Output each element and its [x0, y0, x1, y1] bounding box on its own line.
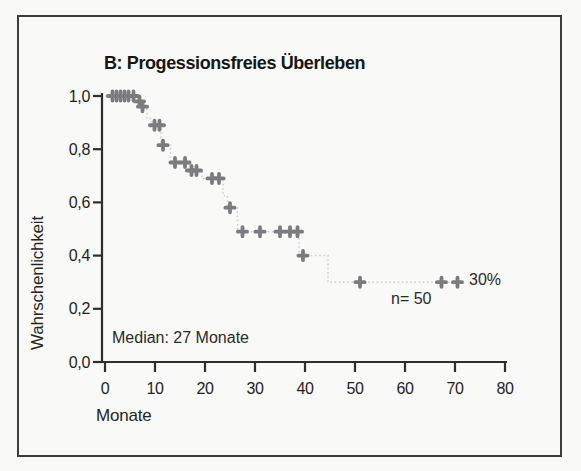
censor-mark	[355, 278, 364, 287]
x-tick-label: 80	[496, 380, 514, 397]
sample-size-annotation: n= 50	[391, 290, 431, 308]
censor-mark	[180, 158, 189, 167]
plateau-percent-annotation: 30%	[469, 271, 501, 289]
x-tick-label: 40	[296, 380, 314, 397]
y-tick-label: 1,0	[69, 88, 91, 105]
y-tick-label: 0,2	[69, 300, 91, 317]
censor-mark	[158, 141, 167, 150]
censor-mark	[437, 278, 446, 287]
y-tick-label: 0,0	[69, 354, 91, 371]
x-tick-label: 60	[396, 380, 414, 397]
x-tick-label: 70	[446, 380, 464, 397]
censor-mark	[214, 174, 223, 183]
chart-title: B: Progessionsfreies Überleben	[104, 53, 365, 74]
median-annotation: Median: 27 Monate	[112, 329, 249, 347]
censor-mark	[255, 227, 264, 236]
censor-mark	[238, 227, 247, 236]
x-axis-title: Monate	[96, 406, 152, 426]
censor-mark	[170, 158, 179, 167]
x-tick-label: 50	[346, 380, 364, 397]
x-tick-label: 10	[146, 380, 164, 397]
censor-mark	[275, 227, 284, 236]
x-tick-label: 30	[246, 380, 264, 397]
censor-mark	[298, 251, 307, 260]
y-axis-title: Wahrschenlichkeit	[28, 216, 48, 350]
figure-panel: 0,00,20,40,60,81,001020304050607080 B: P…	[0, 0, 581, 471]
x-tick-label: 0	[101, 380, 110, 397]
y-tick-label: 0,8	[69, 141, 91, 158]
x-tick-label: 20	[196, 380, 214, 397]
censor-mark	[453, 278, 462, 287]
y-tick-label: 0,4	[69, 247, 91, 264]
y-tick-label: 0,6	[69, 194, 91, 211]
censor-mark	[293, 227, 302, 236]
